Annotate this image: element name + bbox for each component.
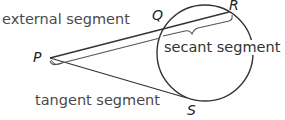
- external-segment-label: external segment: [2, 12, 130, 27]
- secant-segment-brace: [163, 15, 232, 36]
- point-s-label: S: [187, 103, 196, 117]
- point-r-label: R: [229, 0, 239, 12]
- point-q-label: Q: [152, 8, 163, 22]
- external-segment-brace: [50, 38, 160, 65]
- tangent-segment-label: tangent segment: [35, 93, 160, 108]
- point-p-label: P: [33, 50, 41, 64]
- secant-segment-label: secant segment: [163, 40, 281, 55]
